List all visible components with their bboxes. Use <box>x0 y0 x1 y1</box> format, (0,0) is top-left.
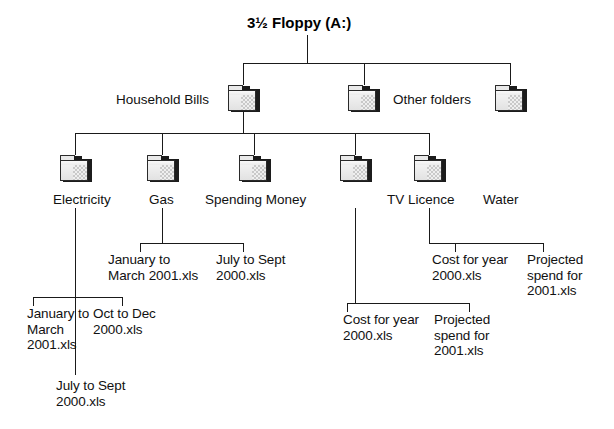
folder-icon-third-unnamed[interactable] <box>495 85 527 112</box>
connector-tv-licence-file-2 <box>469 303 470 312</box>
connector-root-stem <box>307 35 308 63</box>
folder-body-top <box>341 161 367 165</box>
connector-electricity-bus <box>33 297 123 298</box>
folder-icon-spending-money[interactable] <box>239 155 271 182</box>
folder-label-electricity: Electricity <box>53 192 111 207</box>
file-label-electricity-oct-dec: Oct to Dec 2000.xls <box>93 306 156 337</box>
connector-drop-other-folders <box>364 63 365 85</box>
folder-body-top <box>496 91 522 95</box>
connector-tv-licence-file-1 <box>347 303 348 312</box>
connector-drop-third-folder <box>510 63 511 85</box>
file-label-electricity-jan-march: January to March 2001.xls <box>27 306 89 353</box>
folder-body-top <box>148 161 174 165</box>
root-title: 3½ Floppy (A:) <box>247 14 351 31</box>
connector-water-file-1 <box>455 243 456 252</box>
connector-drop-spending-money <box>254 133 255 155</box>
folder-body-top <box>240 161 266 165</box>
folder-icon-tv-licence[interactable] <box>340 155 372 182</box>
folder-icon-electricity[interactable] <box>60 155 92 182</box>
file-label-electricity-july-sept: July to Sept 2000.xls <box>56 378 125 409</box>
connector-drop-water <box>429 133 430 155</box>
folder-body-top <box>349 91 375 95</box>
connector-level3-bus <box>75 133 429 134</box>
folder-icon-other-folders[interactable] <box>348 85 380 112</box>
folder-label-household-bills: Household Bills <box>116 92 209 107</box>
folder-icon-gas[interactable] <box>147 155 179 182</box>
connector-gas-stem <box>162 208 163 243</box>
file-label-gas-july-sept: July to Sept 2000.xls <box>216 252 285 283</box>
file-label-tv-projected: Projected spend for 2001.xls <box>434 312 490 359</box>
connector-gas-file-1 <box>140 243 141 252</box>
file-label-tv-cost-year: Cost for year 2000.xls <box>343 312 419 343</box>
folder-body-top <box>61 161 87 165</box>
folder-icon-water[interactable] <box>414 155 446 182</box>
file-label-gas-jan-march: January to March 2001.xls <box>108 252 198 283</box>
connector-drop-electricity <box>75 133 76 155</box>
folder-icon-household-bills[interactable] <box>228 85 260 112</box>
folder-label-other-folders: Other folders <box>393 92 471 107</box>
connector-household-bills-stem <box>243 112 244 133</box>
connector-water-stem <box>429 208 430 243</box>
connector-electricity-stem <box>75 208 76 297</box>
connector-gas-bus <box>140 243 244 244</box>
connector-water-bus-left <box>429 243 456 244</box>
connector-water-bus <box>455 243 543 244</box>
folder-body-top <box>415 161 441 165</box>
connector-drop-household-bills <box>243 63 244 85</box>
connector-drop-gas <box>162 133 163 155</box>
connector-electricity-file-1 <box>33 297 34 306</box>
folder-body-top <box>229 91 255 95</box>
connector-level2-bus <box>243 63 511 64</box>
folder-tree-diagram: 3½ Floppy (A:) Household Bills Other fol… <box>0 0 614 429</box>
folder-label-tv-licence: TV Licence <box>387 192 455 207</box>
folder-label-gas: Gas <box>149 192 174 207</box>
connector-tv-licence-bus <box>347 303 470 304</box>
connector-drop-tv-licence <box>355 133 356 155</box>
folder-label-water: Water <box>483 192 519 207</box>
connector-electricity-file-2 <box>122 297 123 306</box>
file-label-water-cost-year: Cost for year 2000.xls <box>432 252 508 283</box>
connector-tv-licence-stem <box>355 208 356 303</box>
connector-water-file-2 <box>543 243 544 252</box>
file-label-water-projected: Projected spend for 2001.xls <box>527 252 583 299</box>
connector-gas-file-2 <box>243 243 244 252</box>
folder-label-spending-money: Spending Money <box>205 192 306 207</box>
